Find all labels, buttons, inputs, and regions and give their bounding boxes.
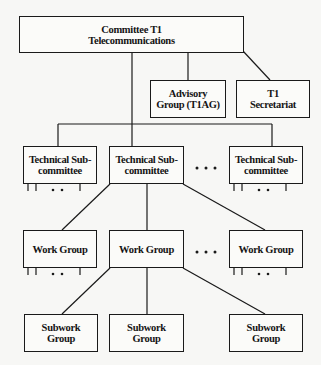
work-group-box: Work Group — [109, 230, 184, 268]
subwork-group-box: Subwork Group — [24, 314, 98, 352]
subwork-group-label: Subwork Group — [247, 322, 286, 344]
subwork-group-label: Subwork Group — [127, 322, 166, 344]
technical-subcommittee-label: Technical Sub- committee — [29, 154, 91, 176]
committee-t1-label: Committee T1 Telecommunications — [88, 24, 174, 46]
secretariat-label: T1 Secretariat — [250, 88, 296, 110]
work-group-box: Work Group — [229, 230, 303, 268]
work-group-label: Work Group — [33, 244, 88, 255]
technical-subcommittee-label: Technical Sub- committee — [115, 154, 177, 176]
secretariat-box: T1 Secretariat — [236, 80, 310, 118]
technical-subcommittee-box: Technical Sub- committee — [229, 146, 303, 184]
subwork-group-box: Subwork Group — [109, 314, 184, 352]
technical-subcommittee-box: Technical Sub- committee — [109, 146, 184, 184]
advisory-group-box: Advisory Group (T1AG) — [150, 80, 226, 118]
work-group-label: Work Group — [239, 244, 294, 255]
committee-t1-box: Committee T1 Telecommunications — [19, 16, 244, 53]
technical-subcommittee-box: Technical Sub- committee — [23, 146, 97, 184]
work-group-box: Work Group — [23, 230, 97, 268]
advisory-group-label: Advisory Group (T1AG) — [156, 88, 220, 110]
subwork-group-label: Subwork Group — [42, 322, 81, 344]
subwork-group-box: Subwork Group — [229, 314, 303, 352]
technical-subcommittee-label: Technical Sub- committee — [235, 154, 297, 176]
work-group-label: Work Group — [119, 244, 174, 255]
